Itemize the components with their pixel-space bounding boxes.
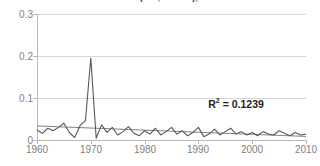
chart-container: … death count (ICD, Mexico), 1960–2010 0…: [0, 0, 320, 166]
observed-line: [37, 58, 306, 138]
r-squared-symbol: R: [208, 98, 216, 110]
r-squared-exponent: 2: [216, 97, 220, 104]
series-layer: [0, 0, 320, 166]
r-squared-value: = 0.1239: [223, 98, 264, 110]
r-squared-annotation: R2 = 0.1239: [208, 97, 264, 110]
